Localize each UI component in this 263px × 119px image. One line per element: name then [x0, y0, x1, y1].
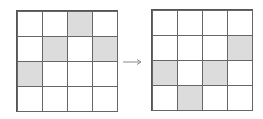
- empty-cell: [152, 10, 178, 36]
- empty-cell: [227, 10, 253, 36]
- empty-cell: [92, 11, 118, 37]
- empty-cell: [227, 85, 253, 111]
- filled-cell: [67, 11, 93, 37]
- filled-cell: [152, 60, 178, 86]
- before-grid: [16, 10, 118, 112]
- empty-cell: [42, 61, 68, 87]
- empty-cell: [92, 61, 118, 87]
- filled-cell: [17, 61, 43, 87]
- empty-cell: [17, 11, 43, 37]
- filled-cell: [202, 60, 228, 86]
- empty-cell: [17, 36, 43, 62]
- empty-cell: [42, 11, 68, 37]
- empty-cell: [202, 85, 228, 111]
- empty-cell: [152, 35, 178, 61]
- filled-cell: [92, 36, 118, 62]
- empty-cell: [227, 60, 253, 86]
- empty-cell: [92, 86, 118, 112]
- empty-cell: [202, 35, 228, 61]
- empty-cell: [152, 85, 178, 111]
- empty-cell: [67, 61, 93, 87]
- filled-cell: [177, 85, 203, 111]
- empty-cell: [177, 35, 203, 61]
- empty-cell: [42, 86, 68, 112]
- empty-cell: [177, 60, 203, 86]
- after-grid: [151, 9, 253, 111]
- empty-cell: [202, 10, 228, 36]
- filled-cell: [227, 35, 253, 61]
- empty-cell: [67, 36, 93, 62]
- filled-cell: [42, 36, 68, 62]
- empty-cell: [67, 86, 93, 112]
- right-arrow-icon: [123, 58, 143, 66]
- empty-cell: [17, 86, 43, 112]
- empty-cell: [177, 10, 203, 36]
